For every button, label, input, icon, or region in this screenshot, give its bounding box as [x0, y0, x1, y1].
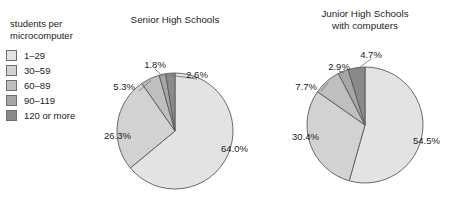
pie-slice-percent-label: 7.7% [295, 82, 317, 92]
legend-item: 90–119 [6, 93, 102, 108]
legend-swatch-icon [6, 95, 17, 106]
legend-item: 1–29 [6, 48, 102, 63]
pie-slice-percent-label: 1.8% [144, 60, 166, 70]
pie-canvas-1 [300, 8, 430, 202]
legend-item: 60–89 [6, 78, 102, 93]
legend-item-label: 30–59 [24, 65, 50, 76]
legend-swatch-icon [6, 50, 17, 61]
pie-chart-junior-high-schools: Junior High Schools with computers 54.5%… [300, 8, 430, 189]
pie-slice-percent-label: 2.6% [186, 70, 208, 80]
pie-slice-percent-label: 54.5% [413, 136, 440, 146]
legend-item-label: 60–89 [24, 80, 50, 91]
legend-item: 120 or more [6, 108, 102, 123]
legend: students per microcomputer 1–2930–5960–8… [6, 18, 102, 123]
pie-canvas-0 [110, 14, 240, 202]
legend-title-line-1: students per [10, 18, 102, 30]
legend-items: 1–2930–5960–8990–119120 or more [6, 48, 102, 123]
pie-slice-percent-label: 64.0% [221, 144, 248, 154]
pie-slice-percent-label: 5.3% [113, 82, 135, 92]
pie-slice-percent-label: 30.4% [292, 132, 319, 142]
legend-swatch-icon [6, 80, 17, 91]
legend-swatch-icon [6, 65, 17, 76]
legend-swatch-icon [6, 110, 17, 121]
legend-item-label: 90–119 [24, 95, 55, 106]
legend-item-label: 1–29 [24, 50, 45, 61]
figure-root: students per microcomputer 1–2930–5960–8… [0, 0, 473, 202]
pie-chart-senior-high-schools: Senior High Schools 64.0%26.3%5.3%1.8%2.… [110, 14, 240, 189]
legend-title-line-2: microcomputer [10, 30, 102, 42]
pie-slice-percent-label: 2.9% [328, 62, 350, 72]
legend-item: 30–59 [6, 63, 102, 78]
legend-item-label: 120 or more [24, 110, 75, 121]
legend-title: students per microcomputer [10, 18, 102, 41]
pie-slice-percent-label: 4.7% [360, 50, 382, 60]
pie-slice-percent-label: 26.3% [104, 131, 131, 141]
